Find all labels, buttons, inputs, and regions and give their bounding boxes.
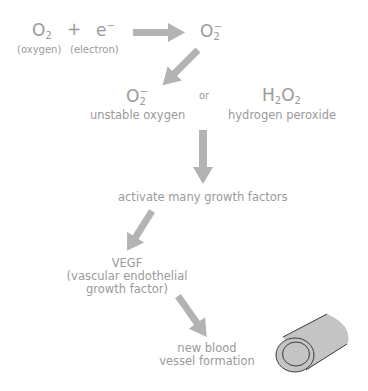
superoxide-product-formula: O2−: [200, 22, 222, 42]
arrow-right-icon: [133, 23, 185, 42]
vessel-formation-line1: new blood: [152, 343, 262, 355]
hydrogen-peroxide-formula: H2O2: [262, 87, 301, 106]
arrow-down-right-icon: [170, 290, 215, 342]
superoxide-formula: O2−: [126, 87, 148, 107]
arrow-down-left-icon: [156, 43, 205, 92]
plus-sign: +: [67, 21, 81, 38]
vegf-desc-line2: growth factor): [62, 284, 192, 296]
unstable-oxygen-label: unstable oxygen: [90, 110, 185, 122]
vessel-formation-line2: vessel formation: [152, 356, 262, 368]
arrow-down-icon: [193, 130, 213, 184]
or-text: or: [199, 91, 209, 101]
vegf-desc-line1: (vascular endothelial: [62, 271, 192, 283]
blood-vessel-icon: [276, 314, 349, 372]
electron-formula: e−: [96, 21, 115, 39]
growth-factors-label: activate many growth factors: [118, 192, 288, 204]
arrow-down-left-icon: [119, 206, 161, 256]
oxygen-label: (oxygen): [17, 45, 61, 55]
vegf-title: VEGF: [62, 258, 192, 270]
electron-label: (electron): [70, 45, 119, 55]
oxygen-formula: O2: [32, 22, 52, 41]
hydrogen-peroxide-label: hydrogen peroxide: [228, 110, 336, 122]
